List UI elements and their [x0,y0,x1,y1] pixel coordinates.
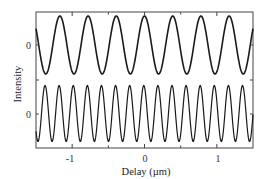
y-tick-label-upper: 0 [26,40,31,51]
y-axis-label: Intensity [12,65,23,102]
upper-trace [36,16,253,74]
y-tick-label-lower: 0 [26,109,31,120]
lower-trace [36,86,253,142]
interferogram-chart: -1 0 1 0 0 Delay (µm) Intensity [0,0,263,179]
upper-trace-line [36,16,253,74]
x-axis-label: Delay (µm) [122,166,171,178]
lower-trace-line [36,86,253,142]
x-tick-label-minus1: -1 [66,153,74,164]
x-tick-label-1: 1 [216,153,221,164]
x-tick-label-0: 0 [143,153,148,164]
